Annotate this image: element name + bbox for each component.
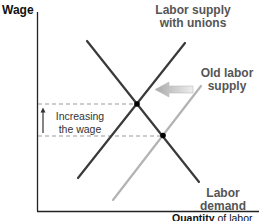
old-supply-label: Old labor supply [196, 67, 258, 93]
new-equilibrium-point [134, 101, 140, 107]
union-supply-label-line2: with unions [138, 17, 248, 30]
x-axis-label-rest: of labor [215, 212, 253, 221]
old-labor-supply-curve [113, 86, 201, 200]
old-equilibrium-point [160, 133, 166, 139]
wage-increase-arrow-icon [41, 108, 46, 134]
x-axis-label-bold: Quantity [172, 212, 215, 221]
demand-label: Labor demand [193, 187, 253, 213]
shift-left-arrow-icon [155, 82, 193, 97]
old-supply-label-line2: supply [196, 80, 258, 93]
annotation-line1: Increasing [50, 110, 110, 123]
increasing-wage-annotation: Increasing the wage [50, 110, 110, 136]
y-axis-label: Wage [2, 4, 34, 17]
x-axis-label: Quantity of labor [172, 212, 253, 221]
annotation-line2: the wage [50, 123, 110, 136]
union-supply-label: Labor supply with unions [138, 4, 248, 30]
